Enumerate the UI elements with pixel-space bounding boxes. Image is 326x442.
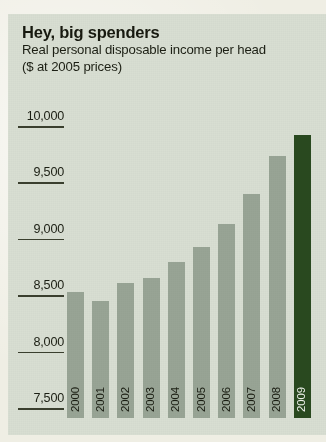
x-axis-tick-label-2004: 2004 [170, 387, 181, 412]
y-axis-tick-rule [18, 126, 64, 128]
y-axis-tick-label: 8,000 [8, 335, 64, 352]
x-axis-tick-label-2007: 2007 [246, 387, 257, 412]
y-axis-tick-rule [18, 182, 64, 184]
chart-panel: Hey, big spenders Real personal disposab… [8, 14, 326, 435]
y-axis-tick-rule [18, 295, 64, 297]
y-axis-tick-label: 10,000 [8, 109, 64, 126]
x-axis-tick-label-2002: 2002 [120, 387, 131, 412]
x-axis-tick-label-2008: 2008 [271, 387, 282, 412]
bar-2009 [294, 135, 311, 418]
y-axis-tick-label: 9,500 [8, 165, 64, 182]
page-background: Hey, big spenders Real personal disposab… [0, 0, 326, 442]
x-axis-tick-label-2003: 2003 [145, 387, 156, 412]
y-axis-tick-rule [18, 408, 64, 410]
y-axis-tick-rule [18, 352, 64, 354]
bar-2007 [243, 194, 260, 418]
x-axis-tick-label-2009: 2009 [296, 387, 307, 412]
x-axis-tick-label-2001: 2001 [95, 387, 106, 412]
bar-2008 [269, 156, 286, 418]
x-axis-tick-label-2000: 2000 [70, 387, 81, 412]
y-axis-tick-label: 7,500 [8, 391, 64, 408]
y-axis-tick-label: 8,500 [8, 278, 64, 295]
plot-area: 10,0009,5009,0008,5008,0007,500200020012… [8, 14, 326, 435]
x-axis-tick-label-2006: 2006 [221, 387, 232, 412]
x-axis-tick-label-2005: 2005 [196, 387, 207, 412]
y-axis-tick-label: 9,000 [8, 222, 64, 239]
y-axis-tick-rule [18, 239, 64, 241]
